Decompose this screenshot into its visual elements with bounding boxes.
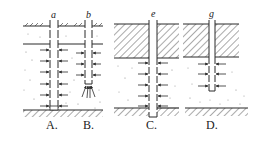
panel-d: g D.: [183, 8, 248, 132]
well-diagram: a A. b B.: [0, 0, 260, 149]
well-d: [209, 20, 215, 91]
panel-label-d: D.: [206, 118, 218, 132]
inflow-arrows: [198, 64, 226, 86]
well-label-d: g: [209, 8, 214, 19]
panel-c: e C.: [114, 8, 179, 132]
impermeable-base: [23, 106, 103, 117]
panel-label-a: A.: [46, 118, 58, 132]
panel-label-b: B.: [83, 118, 94, 132]
ground-surface: [72, 23, 103, 26]
confining-layer: [114, 24, 179, 58]
aquifer-sand: [24, 34, 101, 109]
well-label-b: b: [86, 9, 91, 20]
panel-label-c: C.: [146, 118, 157, 132]
well-a: [50, 20, 58, 110]
aquifer-sand: [118, 66, 176, 101]
well-b: [85, 20, 92, 84]
inflow-arrows: [40, 50, 68, 106]
ground-surface: [23, 23, 72, 26]
inflow-arrows: [138, 63, 168, 106]
well-c: [149, 20, 157, 117]
well-label-c: e: [151, 8, 156, 19]
inflow-arrows: [76, 53, 101, 98]
impermeable-base: [185, 108, 248, 116]
well-label-a: a: [51, 9, 56, 20]
impermeable-base: [114, 108, 179, 116]
confining-layer: [183, 24, 239, 57]
